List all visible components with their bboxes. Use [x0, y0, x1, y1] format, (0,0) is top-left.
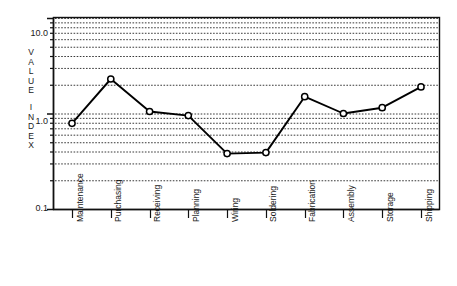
data-point-marker[interactable] [302, 94, 308, 100]
y-axis-tick-labels: 10.0 1.0 0.1 [10, 0, 48, 286]
data-point-marker[interactable] [185, 113, 191, 119]
y-tick-label-1: 1.0 [14, 117, 48, 126]
x-tick-label-fabrication: Fabrication [308, 180, 317, 222]
y-tick-label-10: 10.0 [14, 29, 48, 38]
data-point-marker[interactable] [69, 120, 75, 126]
x-tick-label-planning: Planning [192, 189, 201, 222]
x-tick-label-shipping: Shipping [425, 189, 434, 222]
data-point-marker[interactable] [418, 84, 424, 90]
x-tick-label-purchasing: Purchasing [114, 179, 123, 222]
x-tick-label-soldering: Soldering [269, 186, 278, 222]
x-tick-label-assembly: Assembly [347, 185, 356, 222]
data-point-marker[interactable] [340, 110, 346, 116]
x-axis-ticks [73, 209, 422, 218]
x-tick-label-maintenance: Maintenance [76, 173, 85, 222]
data-point-marker[interactable] [224, 151, 230, 157]
data-point-marker[interactable] [379, 105, 385, 111]
data-point-marker[interactable] [147, 108, 153, 114]
x-tick-label-receiving: Receiving [153, 185, 162, 222]
x-tick-label-storage: Storage [386, 192, 395, 222]
data-point-marker[interactable] [263, 150, 269, 156]
value-index-line-chart: V A L U E I N D E X 10.0 1.0 0.1 Mainten… [0, 0, 457, 286]
data-point-marker[interactable] [108, 76, 114, 82]
y-tick-label-0.1: 0.1 [14, 204, 48, 213]
x-tick-label-wiring: Wiring [231, 198, 240, 222]
plot-area [0, 0, 457, 286]
